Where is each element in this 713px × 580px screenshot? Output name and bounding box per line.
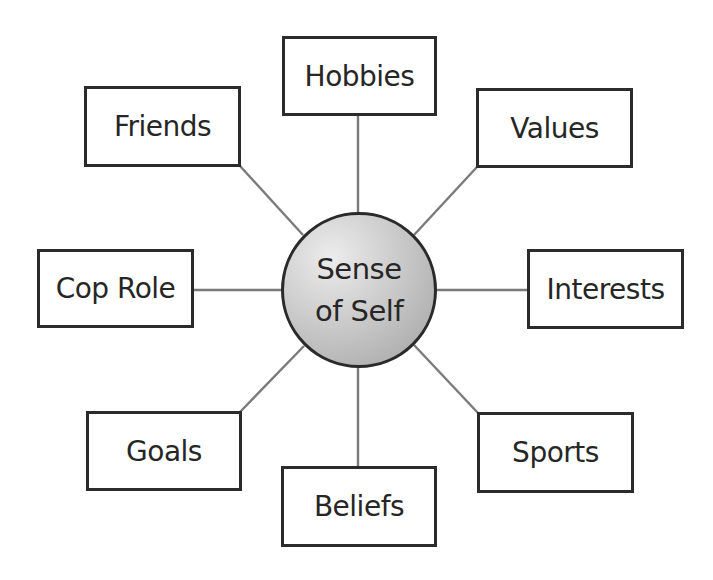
node-label: Beliefs (314, 490, 404, 523)
node-interests: Interests (527, 249, 684, 329)
node-label: Sports (512, 436, 599, 469)
center-label-line1: Sense (316, 248, 401, 290)
node-sports: Sports (477, 412, 634, 493)
connector-goals (240, 346, 304, 412)
center-label-line2: of Self (315, 290, 403, 332)
connector-friends (240, 166, 303, 235)
node-hobbies: Hobbies (282, 36, 437, 116)
node-beliefs: Beliefs (281, 466, 437, 547)
center-node-sense-of-self: Sense of Self (281, 212, 437, 368)
connector-sports (414, 345, 478, 413)
node-label: Values (510, 112, 598, 145)
node-label: Cop Role (56, 272, 176, 305)
node-label: Friends (114, 110, 211, 143)
node-friends: Friends (84, 86, 241, 167)
connector-values (414, 167, 477, 235)
node-label: Hobbies (305, 60, 415, 93)
node-label: Interests (547, 273, 665, 306)
sense-of-self-diagram: Hobbies Values Interests Sports Beliefs … (0, 0, 713, 580)
node-goals: Goals (86, 411, 242, 491)
node-values: Values (476, 88, 633, 168)
node-label: Goals (126, 435, 202, 468)
node-cop-role: Cop Role (37, 249, 194, 328)
